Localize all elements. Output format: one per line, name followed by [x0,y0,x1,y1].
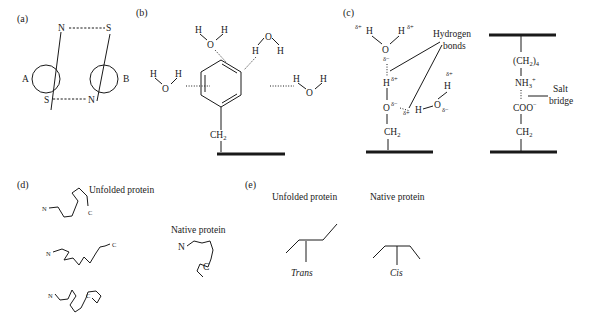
dipole-a-north-pole: N [58,23,65,33]
figure-canvas: (a) N S A S N B (b) CH2 H H O [0,0,597,323]
delta-plus: δ+ [407,23,414,30]
trans-peptide-backbone [286,224,337,253]
panel-b-ch2: CH2 [210,130,226,141]
chain-2-n-terminus: N [46,250,51,257]
unfolded-protein-label-e: Unfolded protein [272,192,337,202]
delta-plus: δ+ [446,70,453,77]
chain-3-n-terminus: N [48,292,53,299]
water-2-h1: H [252,46,259,56]
unfolded-chain-1 [49,188,88,217]
native-protein-label: Native protein [171,225,226,235]
water-top-o: O [382,45,389,55]
water-top-h1: H [366,26,373,36]
dipole-b-label: B [123,74,129,84]
water-2-o: O [265,32,272,42]
delta-minus: δ− [442,106,449,113]
panel-a-dipole-diagram: (a) N S A S N B [17,13,129,110]
panel-b-label: (b) [136,7,148,19]
water-top-bond [372,36,382,44]
water-4-h1: H [293,74,300,84]
water-2-hbond [244,57,256,70]
water-right-h2: H [444,81,451,91]
water-right-bond [438,92,447,99]
water-1-bond [200,34,207,40]
chain-2-c-terminus: C [112,241,116,248]
water-3-h1: H [150,69,157,79]
water-1-h2: H [221,25,228,35]
dipole-a-south-pole: S [44,95,49,105]
water-3-h2: H [175,69,182,79]
water-1-h1: H [195,25,202,35]
delta-plus: δ+ [355,23,362,30]
water-3-bond [171,78,177,84]
salt-bridge-ch2: CH2 [516,127,532,138]
native-n-terminus: N [178,242,185,252]
dipole-a-axis [51,32,61,110]
dipole-b-north-pole: N [88,95,95,105]
panel-c-ch2: CH2 [384,127,400,138]
unfolded-protein-label: Unfolded protein [89,185,154,195]
chain-1-c-terminus: C [88,209,92,216]
water-top-bond [390,36,399,44]
dipole-a-label: A [22,74,29,84]
salt-bridge-ch2-4: (CH2)4 [513,56,540,67]
dipole-b-axis [97,34,110,101]
hydrogen-bonds-pointer-2 [409,45,442,108]
hydrogen-bonds-pointer-1 [390,42,440,71]
water-1-bond [216,34,223,40]
panel-c-label: (c) [343,7,354,19]
benzene-ring [201,60,241,107]
panel-e-peptide-isomers: (e) Unfolded protein Native protein Tran… [245,179,425,278]
water-right-o: O [434,100,441,110]
water-2-h2: H [277,46,284,56]
delta-minus: δ− [383,55,390,62]
delta-plus: δ+ [403,109,410,116]
chain-1-n-terminus: N [42,205,47,212]
water-4-bond [315,83,322,89]
hydroxyl-o: O [383,103,390,113]
delta-minus: δ− [391,100,398,107]
water-3-o: O [162,84,169,94]
trans-label: Trans [291,268,313,278]
native-protein-label-e: Native protein [370,192,425,202]
salt-bridge-label-line2: bridge [549,96,573,106]
unfolded-chain-3 [55,290,101,312]
dipole-b-south-pole: S [106,23,111,33]
native-c-terminus: C [203,262,209,272]
water-top-h2: H [398,26,405,36]
salt-bridge-nh3: NH3+ [515,76,536,89]
panel-d-protein-folding: (d) Unfolded protein N C N C N C Native … [17,179,226,312]
unfolded-chain-2 [53,244,110,265]
water-2-bond [272,38,279,45]
panel-a-label: (a) [17,13,28,25]
panel-c-hydrogen-bonds: (c) δ+ H H δ+ O δ− H δ+ O δ− δ+ H O δ− H… [343,7,573,152]
water-1-o: O [207,40,214,50]
salt-bridge-label-line1: Salt [553,84,568,94]
water-4-h2: H [320,74,327,84]
panel-e-label: (e) [245,179,256,191]
water-2-bond [258,38,264,45]
water-4-o: O [306,88,313,98]
delta-plus: δ+ [391,75,398,82]
chain-3-c-terminus: C [86,292,90,299]
panel-d-label: (d) [17,179,29,191]
water-3-bond [155,78,162,84]
water-right-bond [423,106,433,109]
water-4-bond [298,83,306,89]
hydrogen-bonds-label-line1: Hydrogen [433,29,471,39]
hydroxyl-h: H [383,78,390,88]
panel-b-aromatic-hydration: (b) CH2 H H O O H H H H O H H O [136,7,327,154]
water-right-h1: H [415,105,422,115]
salt-bridge-coo: COO− [513,101,537,113]
cis-label: Cis [390,268,403,278]
dipole-b-circle [90,65,118,93]
hydrogen-bonds-label-line2: bonds [443,41,466,51]
